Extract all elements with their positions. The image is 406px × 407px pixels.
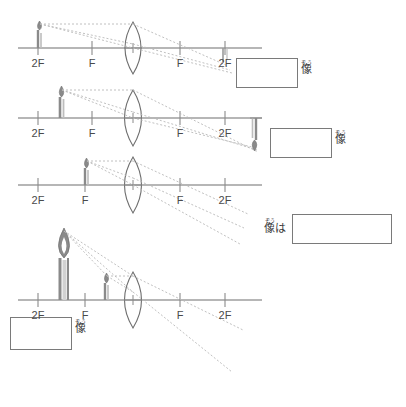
tick-label-f: F (77, 310, 93, 321)
answer-box-row-1[interactable] (236, 58, 298, 88)
tick-label-f: F (84, 58, 100, 69)
ray-bundle (62, 90, 258, 152)
answer-box-row-4[interactable] (10, 317, 72, 350)
object-candle (85, 158, 89, 185)
image-candle (59, 228, 70, 300)
tick-label-f: F (172, 310, 188, 321)
tick-label-f: F (172, 58, 188, 69)
tick-label-2f: 2F (213, 58, 237, 69)
image-candle (250, 118, 262, 151)
row-2-diagram (18, 86, 262, 152)
image-label-base: 像 (335, 134, 346, 145)
object-candle (38, 21, 42, 48)
tick-label-2f: 2F (26, 58, 50, 69)
image-label-row-2: ぞう 像 (335, 130, 346, 145)
image-label-row-4: ぞう 像 (75, 319, 86, 334)
image-label-row-1: ぞう 像 (301, 60, 312, 75)
tick-label-f: F (172, 128, 188, 139)
convex-lens (124, 272, 142, 328)
tick-label-f: F (172, 195, 188, 206)
tick-label-2f: 2F (213, 195, 237, 206)
answer-box-row-3[interactable] (292, 214, 392, 244)
row-4-diagram (18, 228, 262, 372)
image-label-base: 像 (264, 223, 275, 234)
tick-label-2f: 2F (26, 310, 50, 321)
answer-box-row-2[interactable] (270, 128, 332, 158)
image-topic-label-row-3: ぞう 像 は (264, 218, 286, 234)
topic-particle: は (275, 223, 286, 234)
image-label-base: 像 (301, 64, 312, 75)
tick-label-2f: 2F (26, 195, 50, 206)
tick-label-2f: 2F (26, 128, 50, 139)
tick-label-f: F (84, 128, 100, 139)
ray-bundle (64, 231, 243, 372)
tick-label-2f: 2F (213, 310, 237, 321)
tick-label-f: F (77, 195, 93, 206)
tick-label-2f: 2F (213, 128, 237, 139)
image-label-base: 像 (75, 323, 86, 334)
